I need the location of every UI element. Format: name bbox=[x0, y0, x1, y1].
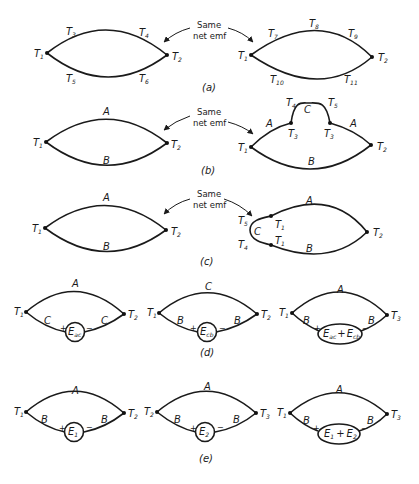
junction-dot bbox=[249, 145, 253, 149]
panel-a-right-circuit: T1 T2 T7 T8 T9 T10 T11 bbox=[238, 18, 388, 86]
caption-d: (d) bbox=[200, 347, 214, 358]
panel-c-left-circuit: T1 T2 A B bbox=[32, 192, 181, 252]
panel-c-right-circuit: T1 T1 T2 T5 T4 C A B bbox=[238, 195, 383, 254]
caption-c: (c) bbox=[200, 256, 213, 267]
segment-label-t10: T10 bbox=[270, 74, 284, 86]
junction-dot bbox=[44, 140, 48, 144]
junction-dot bbox=[43, 226, 47, 230]
junction-label-t1: T1 bbox=[14, 306, 24, 318]
segment-label-t7: T7 bbox=[268, 28, 278, 40]
plus-sign: + bbox=[190, 324, 197, 333]
junction-dot bbox=[385, 313, 389, 317]
junction-label-t1: T1 bbox=[33, 137, 43, 149]
junction-label-t2: T2 bbox=[128, 408, 138, 420]
arrow-left bbox=[164, 116, 190, 130]
junction-label-t1-upper: T1 bbox=[275, 219, 285, 231]
wire-label-upper: A bbox=[71, 278, 79, 289]
arrow-right bbox=[228, 28, 253, 42]
wire-label-lower-left: B bbox=[303, 415, 310, 426]
plus-sign: + bbox=[60, 324, 67, 333]
junction-dot bbox=[369, 143, 373, 147]
plus-sign: + bbox=[59, 424, 66, 433]
junction-dot bbox=[155, 410, 159, 414]
junction-label-t1: T1 bbox=[238, 50, 248, 62]
wire-label-lower-left: C bbox=[44, 315, 51, 326]
panel-c: T1 T2 A B Same net emf T1 T1 T2 T5 T4 C … bbox=[32, 189, 383, 267]
junction-dot bbox=[289, 121, 293, 125]
plus-sign: + bbox=[190, 424, 197, 433]
upper-wire-a bbox=[46, 119, 167, 143]
note-line-1: Same bbox=[197, 20, 221, 30]
junction-dot bbox=[45, 51, 49, 55]
wire-label-lower-left: B bbox=[303, 315, 310, 326]
wire-label-lower-left: B bbox=[41, 414, 48, 425]
upper-wire-a bbox=[26, 291, 124, 314]
segment-label-t4: T4 bbox=[139, 27, 149, 39]
panel-d-circuit-3: Eac+Ecb T1 T3 A B B + − bbox=[279, 284, 401, 344]
thermocouple-circuits-figure: T1 T2 T3 T4 T5 T6 Same net emf T1 T2 T7 … bbox=[0, 0, 419, 484]
plus-sign: + bbox=[314, 324, 321, 333]
junction-label-t1: T1 bbox=[238, 142, 248, 154]
junction-label-t1: T1 bbox=[147, 307, 157, 319]
lower-wire bbox=[47, 53, 167, 77]
wire-label-lower-right: B bbox=[234, 315, 241, 326]
junction-label-t1: T1 bbox=[32, 223, 42, 235]
wire-label-lower-left: B bbox=[174, 414, 181, 425]
junction-dot bbox=[165, 53, 169, 57]
panel-d: Eac T1 T2 A C C + − Ecb T1 T2 C B B + − bbox=[14, 278, 401, 358]
same-net-emf-note-c: Same net emf bbox=[164, 189, 252, 216]
upper-wire-a bbox=[271, 204, 367, 232]
junction-label-t2: T2 bbox=[172, 51, 182, 63]
panel-a-left-circuit: T1 T2 T3 T4 T5 T6 bbox=[34, 26, 182, 85]
junction-label-t3: T3 bbox=[260, 408, 270, 420]
junction-dot bbox=[370, 55, 374, 59]
note-line-1: Same bbox=[197, 189, 221, 199]
upper-wire-a bbox=[292, 292, 387, 315]
minus-sign: − bbox=[86, 423, 93, 432]
minus-sign: − bbox=[217, 423, 224, 432]
junction-label-t2: T2 bbox=[144, 406, 154, 418]
arrow-right bbox=[228, 122, 253, 134]
minus-sign: − bbox=[362, 324, 369, 333]
wire-label-c: C bbox=[254, 226, 261, 237]
junction-label-t2: T2 bbox=[171, 226, 181, 238]
segment-label-t6: T6 bbox=[139, 73, 149, 85]
wire-label-c: C bbox=[304, 104, 311, 115]
wire-label-lower-right: B bbox=[367, 415, 374, 426]
junction-dot bbox=[385, 412, 389, 416]
panel-b: T1 T2 A B Same net emf T1 T2 T3 T3 T4 T5 bbox=[33, 97, 387, 176]
wire-label-b: B bbox=[308, 156, 315, 167]
junction-dot bbox=[290, 311, 294, 315]
segment-label-t11: T11 bbox=[344, 74, 358, 86]
junction-label-t2: T2 bbox=[128, 309, 138, 321]
junction-dot bbox=[164, 228, 168, 232]
junction-dot bbox=[122, 411, 126, 415]
junction-label-t2: T2 bbox=[171, 139, 181, 151]
panel-e-circuit-1: E1 T1 T2 A B B + − bbox=[14, 385, 138, 442]
wire-label-b: B bbox=[103, 155, 110, 166]
junction-label-t2: T2 bbox=[377, 141, 387, 153]
wire-label-lower-right: C bbox=[101, 315, 108, 326]
upper-wire-a bbox=[45, 205, 166, 230]
junction-dot bbox=[288, 411, 292, 415]
wire-label-a: A bbox=[102, 192, 110, 203]
loop-label-t4: T4 bbox=[286, 97, 296, 109]
wire-label-upper: A bbox=[203, 381, 211, 392]
junction-label-t1-lower: T1 bbox=[275, 235, 285, 247]
junction-dot bbox=[255, 312, 259, 316]
segment-label-t8: T8 bbox=[309, 18, 319, 30]
upper-wire-a bbox=[157, 391, 256, 413]
junction-dot bbox=[122, 312, 126, 316]
wire-label-a-left: A bbox=[265, 118, 273, 129]
same-net-emf-note-b: Same net emf bbox=[164, 107, 253, 134]
junction-dot bbox=[269, 243, 273, 247]
arrow-left bbox=[164, 199, 190, 214]
junction-dot bbox=[24, 410, 28, 414]
minus-sign: − bbox=[86, 324, 93, 333]
minus-sign: − bbox=[219, 324, 226, 333]
arrow-left bbox=[164, 28, 190, 42]
junction-label-t3-left: T3 bbox=[288, 128, 298, 140]
caption-a: (a) bbox=[202, 82, 216, 93]
wire-label-upper: A bbox=[71, 385, 79, 396]
junction-dot bbox=[365, 230, 369, 234]
